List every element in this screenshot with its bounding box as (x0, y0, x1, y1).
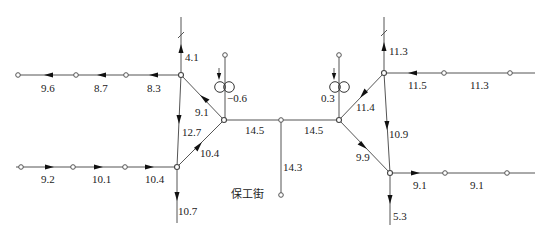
flow-arrow-icon (175, 192, 180, 201)
right-transformer-branch (330, 53, 350, 120)
node-icon (16, 73, 21, 78)
flow-arrow-icon (358, 141, 367, 149)
edge-label: 11.3 (389, 46, 408, 57)
flow-arrow-icon (97, 73, 106, 78)
edge-label: 9.1 (195, 107, 209, 118)
flow-arrow-icon (45, 165, 54, 170)
top-right-feeder (384, 71, 535, 76)
flow-arrow-icon (217, 73, 221, 80)
edge-label: 4.1 (185, 52, 199, 63)
node-icon (508, 71, 513, 76)
flow-arrow-icon (177, 115, 182, 124)
hub-node-icon (382, 71, 387, 76)
edge-label: 12.7 (182, 127, 201, 138)
flow-arrow-icon (145, 165, 154, 170)
node-icon (279, 118, 284, 123)
edge-label: 5.3 (393, 211, 407, 222)
flow-arrow-icon (200, 95, 210, 103)
network-diagram (0, 0, 549, 238)
left-up-branch (178, 17, 184, 75)
street-label: 保工街 (231, 189, 264, 200)
flow-arrow-icon (408, 71, 417, 76)
flow-arrow-icon (411, 171, 420, 176)
flow-arrow-icon (382, 42, 387, 51)
top-left-feeder (16, 73, 181, 78)
flow-arrow-icon (44, 73, 53, 78)
flow-arrow-icon (149, 73, 158, 78)
node-icon (505, 171, 510, 176)
right-up-branch (381, 17, 387, 73)
right-down-branch (388, 173, 393, 225)
edge-label: 14.5 (245, 125, 264, 136)
left-vertical-branch (177, 75, 182, 167)
edge-label: 10.7 (178, 206, 197, 217)
right-diag-bottom-branch (339, 120, 390, 173)
edge-label: 8.3 (147, 83, 161, 94)
edge-label: 14.5 (304, 125, 323, 136)
bottom-right-feeder (390, 171, 535, 176)
hub-node-icon (388, 171, 393, 176)
node-icon (337, 53, 342, 58)
edge-label: 10.9 (389, 129, 408, 140)
node-icon (442, 71, 447, 76)
edge-label: 9.6 (41, 83, 55, 94)
edge-label: −0.6 (227, 93, 247, 104)
hub-node-icon (222, 118, 227, 123)
node-icon (223, 53, 228, 58)
flow-arrow-icon (94, 165, 103, 170)
edge-label: 11.5 (408, 80, 427, 91)
right-vertical-branch (384, 73, 390, 173)
hub-node-icon (179, 73, 184, 78)
edge-label: 10.4 (145, 174, 164, 185)
edge-label: 9.9 (356, 152, 370, 163)
edge-label: 10.1 (92, 174, 111, 185)
bottom-left-feeder (16, 165, 177, 170)
node-icon (279, 193, 284, 198)
edge-label: 11.3 (470, 80, 489, 91)
node-icon (74, 73, 79, 78)
edge-label: 8.7 (94, 83, 108, 94)
node-icon (71, 165, 76, 170)
flow-arrow-icon (179, 44, 184, 53)
hub-node-icon (175, 165, 180, 170)
node-icon (443, 171, 448, 176)
edge-label: 14.3 (283, 162, 302, 173)
flow-arrow-icon (360, 89, 368, 99)
node-icon (19, 165, 24, 170)
edge-label: 10.4 (200, 148, 219, 159)
edge-label: 9.1 (470, 180, 484, 191)
node-icon (124, 73, 129, 78)
hub-node-icon (337, 118, 342, 123)
flow-arrow-icon (332, 73, 336, 80)
flow-arrow-icon (388, 195, 393, 204)
edge-label: 9.2 (41, 174, 55, 185)
edge-label: 0.3 (321, 93, 335, 104)
node-icon (123, 165, 128, 170)
edge-label: 11.4 (356, 102, 375, 113)
left-transformer-branch (215, 53, 235, 120)
edge-label: 9.1 (413, 180, 427, 191)
